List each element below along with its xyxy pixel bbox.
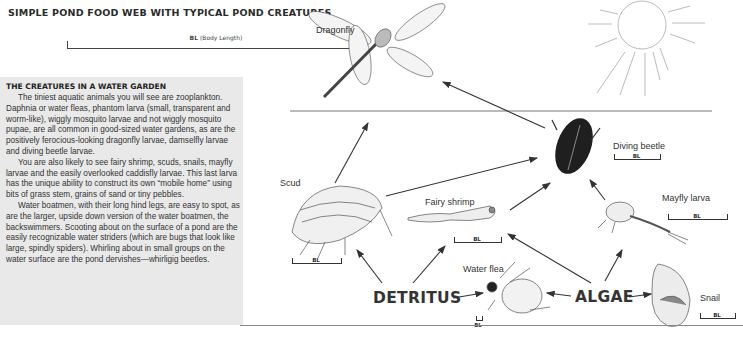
- bl-text: BL: [614, 153, 659, 159]
- fairy-shrimp-icon: [408, 206, 495, 222]
- bl-text: BL: [454, 236, 500, 242]
- label-mayfly-larva: Mayfly larva: [662, 193, 710, 203]
- arrow-scud-to-beetle: [386, 158, 537, 196]
- diving-beetle-icon: [548, 113, 600, 179]
- label-snail: Snail: [700, 293, 720, 303]
- arrow-algae-to-shrimp: [508, 234, 591, 283]
- mayfly-larva-icon: [598, 202, 688, 244]
- bl-text: BL: [700, 312, 734, 318]
- arrow-beetle-to-dragonfly: [443, 82, 545, 128]
- dragonfly-icon: [305, 0, 449, 97]
- bl-text: BL: [292, 257, 340, 263]
- arrow-detritus-to-scud: [357, 250, 382, 283]
- label-fairy-shrimp: Fairy shrimp: [425, 197, 475, 207]
- arrow-detritus-to-shrimp: [413, 246, 445, 283]
- label-dragonfly: Dragonfly: [316, 25, 355, 35]
- label-water-flea: Water flea: [463, 264, 504, 274]
- snail-icon: [652, 264, 690, 326]
- bl-text: BL: [668, 213, 726, 219]
- label-scud: Scud: [280, 178, 301, 188]
- arrow-mayfly-to-beetle: [590, 180, 605, 200]
- source-algae: ALGAE: [575, 288, 634, 306]
- arrow-shrimp-to-beetle: [510, 183, 550, 210]
- arrow-algae-to-mayfly: [605, 250, 622, 281]
- bl-scale-water-flea: [476, 316, 483, 321]
- arrow-scud-to-dragonfly: [335, 123, 368, 183]
- scud-icon: [292, 186, 392, 258]
- bottom-rule: [240, 325, 743, 326]
- sun-icon: [588, 1, 705, 96]
- arrow-algae-to-waterflea: [547, 293, 571, 296]
- label-diving-beetle: Diving beetle: [613, 141, 665, 151]
- source-detritus: DETRITUS: [373, 289, 461, 307]
